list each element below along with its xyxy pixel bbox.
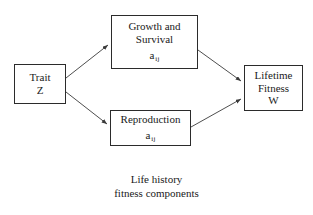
edge-trait-to-growth (66, 45, 108, 78)
diagram-caption: Life history fitness components (0, 172, 313, 201)
growth-coefficient-subscript: ij (154, 55, 159, 63)
lifetime-fitness-line-3: W (268, 94, 278, 107)
caption-line-2: fitness components (0, 186, 313, 200)
reproduction-node[interactable]: Reproduction aij (110, 110, 191, 146)
lifetime-fitness-line-2: Fitness (258, 82, 289, 95)
growth-survival-line-1: Growth and (128, 20, 180, 33)
edge-reproduction-to-fitness (191, 99, 241, 127)
trait-node-line-1: Trait (30, 71, 51, 84)
trait-node-line-2: Z (37, 84, 44, 97)
caption-line-1: Life history (0, 172, 313, 186)
edge-growth-to-fitness (198, 50, 241, 81)
lifetime-fitness-node[interactable]: Lifetime Fitness W (244, 65, 303, 111)
reproduction-coefficient-subscript: ij (150, 135, 155, 143)
growth-survival-line-2: Survival (136, 33, 173, 46)
lifetime-fitness-line-1: Lifetime (255, 69, 293, 82)
growth-survival-coefficient: aij (149, 49, 159, 63)
reproduction-line-1: Reproduction (121, 113, 181, 126)
edge-trait-to-reproduction (66, 92, 107, 124)
diagram-canvas: Trait Z Growth and Survival aij Reproduc… (0, 0, 313, 215)
growth-survival-node[interactable]: Growth and Survival aij (111, 15, 198, 69)
reproduction-coefficient: aij (145, 129, 155, 143)
trait-node[interactable]: Trait Z (14, 64, 66, 104)
